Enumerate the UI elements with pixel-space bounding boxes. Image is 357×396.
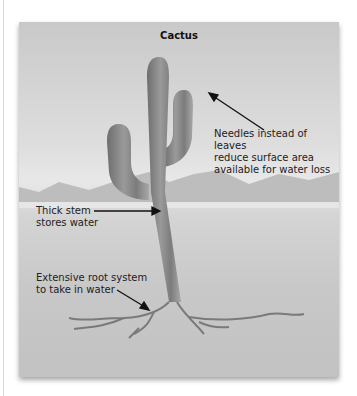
cactus-right-arm: [164, 90, 193, 167]
page-left-rule: [3, 0, 4, 396]
stem-label: Thick stem stores water: [36, 205, 98, 229]
needles-label: Needles instead of leaves reduce surface…: [214, 128, 339, 176]
cactus-roots: [69, 302, 304, 338]
diagram-title: Cactus: [19, 30, 339, 41]
roots-label: Extensive root system to take in water: [36, 272, 147, 296]
cactus-illustration: [19, 22, 339, 377]
cactus-diagram-panel: Cactus Needles instead of leaves reduce …: [19, 22, 339, 377]
